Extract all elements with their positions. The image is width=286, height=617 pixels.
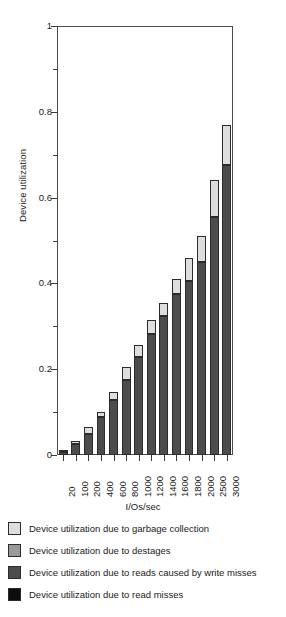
bar-segment (71, 444, 80, 455)
bar-segment (147, 320, 156, 334)
bar-200[interactable] (84, 427, 93, 455)
bar-1200[interactable] (147, 320, 156, 455)
x-tick-label: 100 (80, 481, 90, 497)
x-tick-label: 2000 (206, 476, 216, 497)
x-tick-label: 2500 (218, 476, 228, 497)
bar-segment (197, 236, 206, 262)
bar-1400[interactable] (159, 303, 168, 455)
y-tick-label: 0 (24, 450, 52, 460)
bar-1800[interactable] (185, 258, 194, 455)
x-axis-tick-labels: 2010020040060080010001200140016001800200… (57, 455, 233, 501)
bar-segment (172, 294, 181, 455)
bar-segment (172, 279, 181, 294)
bar-segment (84, 434, 93, 455)
legend-swatch-destages (8, 544, 21, 557)
x-tick-label: 20 (67, 486, 77, 497)
y-tick-label: 0.8 (24, 107, 52, 117)
bar-segment (109, 392, 118, 400)
bar-segment (222, 165, 231, 455)
x-tick-label: 1800 (193, 476, 203, 497)
legend-item[interactable]: Device utilization due to garbage collec… (8, 517, 286, 539)
bar-segment (134, 357, 143, 455)
legend-item[interactable]: Device utilization due to destages (8, 539, 286, 561)
x-tick-label: 1200 (155, 476, 165, 497)
bar-series-container (57, 26, 233, 455)
x-tick-label: 1600 (180, 476, 190, 497)
legend-item-label: Device utilization due to garbage collec… (29, 523, 209, 534)
x-tick-label: 200 (92, 481, 102, 497)
bar-segment (122, 380, 131, 455)
x-tick-label: 3000 (231, 476, 241, 497)
x-tick-label: 600 (118, 481, 128, 497)
bar-segment (210, 217, 219, 455)
bar-segment (147, 334, 156, 455)
chart-legend: Device utilization due to garbage collec… (8, 517, 286, 605)
x-tick-label: 1000 (143, 476, 153, 497)
bar-2000[interactable] (197, 236, 206, 455)
bar-segment (134, 345, 143, 357)
legend-item[interactable]: Device utilization due to reads caused b… (8, 561, 286, 583)
bar-1000[interactable] (134, 345, 143, 455)
plot-area: Device utilization 00.20.40.60.81 201002… (0, 0, 286, 470)
legend-item-label: Device utilization due to destages (29, 545, 171, 556)
bar-3000[interactable] (222, 125, 231, 455)
legend-item[interactable]: Device utilization due to read misses (8, 583, 286, 605)
y-tick-label: 0.4 (24, 278, 52, 288)
legend-item-label: Device utilization due to reads caused b… (29, 567, 257, 578)
bar-600[interactable] (109, 392, 118, 455)
x-axis-title: I/Os/sec (0, 501, 286, 512)
x-tick-label: 1400 (168, 476, 178, 497)
y-axis-ticks: 00.20.40.60.81 (16, 0, 52, 470)
bar-segment (197, 262, 206, 455)
legend-swatch-write-miss-reads (8, 566, 21, 579)
bar-segment (159, 316, 168, 455)
bar-segment (185, 281, 194, 455)
bar-1600[interactable] (172, 279, 181, 455)
bar-segment (109, 400, 118, 455)
y-tick-label: 0.6 (24, 193, 52, 203)
bar-100[interactable] (71, 441, 80, 455)
bar-400[interactable] (97, 412, 106, 455)
y-tick-label: 1 (24, 21, 52, 31)
bar-segment (122, 367, 131, 380)
legend-swatch-read-misses (8, 588, 21, 601)
legend-item-label: Device utilization due to read misses (29, 589, 183, 600)
bar-segment (222, 125, 231, 166)
chart-page: Device utilization 00.20.40.60.81 201002… (0, 0, 286, 617)
bar-segment (210, 180, 219, 216)
bar-segment (97, 417, 106, 455)
x-tick-label: 800 (130, 481, 140, 497)
y-tick-label: 0.2 (24, 364, 52, 374)
bar-800[interactable] (122, 367, 131, 455)
bar-segment (159, 303, 168, 316)
bar-2500[interactable] (210, 180, 219, 455)
bar-segment (84, 427, 93, 434)
bar-segment (185, 258, 194, 282)
x-tick-label: 400 (105, 481, 115, 497)
legend-swatch-garbage-collection (8, 522, 21, 535)
